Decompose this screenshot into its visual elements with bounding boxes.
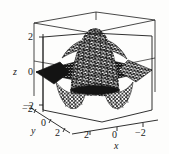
y-axis-title: y bbox=[31, 126, 35, 136]
x-axis-title: x bbox=[114, 141, 118, 151]
y-tick-label-0: 0 bbox=[41, 118, 46, 128]
x-tick-label-2: 2 bbox=[84, 130, 89, 140]
x-tick-label-neg2: −2 bbox=[135, 128, 146, 138]
x-tick-label-0: 0 bbox=[112, 130, 117, 140]
y-tick-label-neg2: −2 bbox=[22, 104, 33, 114]
y-tick-label-2: 2 bbox=[55, 128, 60, 138]
surface-plot-figure: 2 0 −2 z −2 0 2 y 2 0 −2 x bbox=[0, 0, 169, 154]
z-tick-label-0: 0 bbox=[28, 67, 33, 77]
z-axis-title: z bbox=[13, 67, 17, 77]
z-tick-label-2: 2 bbox=[28, 32, 33, 42]
